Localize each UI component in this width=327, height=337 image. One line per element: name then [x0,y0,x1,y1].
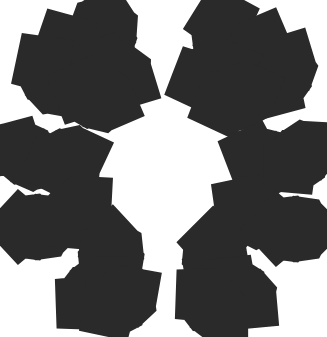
holly-leaf-icon [72,80,118,113]
holly-leaves [5,12,320,325]
leaf-cluster-bottom-left [72,237,142,321]
holly-leaf-icon [44,145,88,175]
holly-leaf-icon [99,283,142,320]
holly-leaf-icon [213,82,259,115]
holly-illustration [0,0,327,337]
leaf-cluster-mid-right-upper [242,137,321,177]
leaf-cluster-top-right [190,12,298,114]
leaf-cluster-mid-left-upper [5,137,87,175]
holly-leaf-icon [272,220,314,238]
holly-leaf-icon [279,137,321,177]
holly-leaf-icon [54,192,96,232]
leaf-cluster-mid-left-lower [14,192,96,236]
leaf-cluster-top-left [32,12,136,112]
holly-leaf-icon [192,285,233,326]
leaf-cluster-bottom-right [192,237,261,326]
